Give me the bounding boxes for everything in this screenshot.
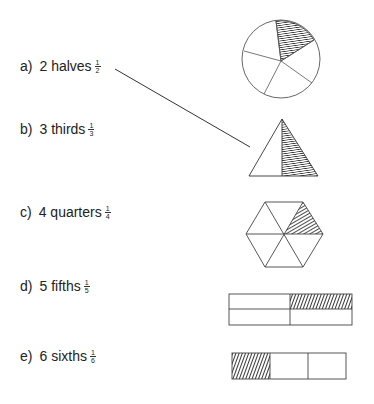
shaded-slice <box>276 21 314 61</box>
shaded-sixth <box>284 202 323 234</box>
circle-fifths <box>242 20 320 98</box>
shaded-third <box>232 353 270 379</box>
rectangle-thirds <box>232 353 346 379</box>
shapes-canvas <box>0 0 374 404</box>
hexagon-sixths <box>246 202 323 267</box>
shaded-quarter <box>290 294 352 309</box>
rectangle-quarters <box>229 294 352 325</box>
connector-line <box>115 69 250 147</box>
triangle-halves <box>249 119 318 176</box>
